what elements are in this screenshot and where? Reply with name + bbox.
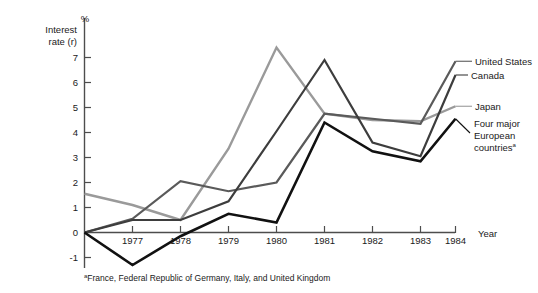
chart-footnote: aFrance, Federal Republic of Germany, It… bbox=[84, 273, 330, 284]
y-tick-label: 6 bbox=[73, 77, 78, 88]
legend-item-european-line3: countriesa bbox=[474, 142, 517, 153]
y-axis-unit-label: % bbox=[81, 13, 90, 24]
y-tick-label: 0 bbox=[73, 227, 78, 238]
y-tick-label: 2 bbox=[73, 177, 78, 188]
legend-item-united-states: United States bbox=[475, 56, 532, 67]
legend-item-european-line2: European bbox=[474, 130, 515, 141]
x-tick-label: 1979 bbox=[218, 235, 239, 246]
x-tick-label: 1977 bbox=[122, 235, 143, 246]
y-tick-labels: 7 6 5 4 3 2 1 0 -1 bbox=[70, 52, 78, 263]
y-axis-title-line1: Interest bbox=[45, 24, 77, 35]
chart-plot-area: 7 6 5 4 3 2 1 0 -1 1977 1978 1979 1980 1… bbox=[0, 0, 538, 293]
x-tick-label: 1982 bbox=[362, 235, 383, 246]
y-tick-label: 1 bbox=[73, 202, 78, 213]
y-axis-title-line2: rate (r) bbox=[49, 36, 78, 47]
x-tick-label: 1984 bbox=[445, 235, 466, 246]
series-line-japan bbox=[85, 48, 456, 221]
interest-rate-line-chart: 7 6 5 4 3 2 1 0 -1 1977 1978 1979 1980 1… bbox=[0, 0, 538, 293]
y-tick-label: -1 bbox=[70, 252, 78, 263]
x-tick-label: 1980 bbox=[266, 235, 287, 246]
x-axis-title: Year bbox=[478, 228, 497, 239]
x-tick-label: 1981 bbox=[314, 235, 335, 246]
y-tick-label: 7 bbox=[73, 52, 78, 63]
y-tick-label: 3 bbox=[73, 152, 78, 163]
legend: United States Canada Japan Four major Eu… bbox=[471, 56, 532, 153]
x-tick-label: 1983 bbox=[410, 235, 431, 246]
legend-leader-lines bbox=[456, 61, 473, 133]
legend-item-canada: Canada bbox=[471, 70, 505, 81]
legend-item-japan: Japan bbox=[475, 101, 501, 112]
y-tick-label: 4 bbox=[73, 127, 78, 138]
y-tick-label: 5 bbox=[73, 102, 78, 113]
legend-item-european-line1: Four major bbox=[474, 118, 520, 129]
